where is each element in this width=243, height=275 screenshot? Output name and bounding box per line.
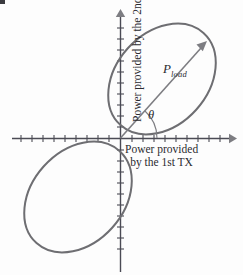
p-load-arrowhead xyxy=(197,41,208,51)
y-axis-label: Power provided by the 2nd TX xyxy=(131,0,144,122)
theta-label: θ xyxy=(148,108,154,122)
y-axis-arrowhead xyxy=(116,9,125,17)
x-axis-label-line2: by the 1st TX xyxy=(125,156,198,169)
x-axis-label: Power provided by the 1st TX xyxy=(125,143,198,169)
x-axis-label-line1: Power provided xyxy=(125,143,198,156)
diagram-canvas xyxy=(0,0,243,275)
p-load-label: Pload xyxy=(163,62,187,79)
x-axis-arrowhead xyxy=(229,134,237,143)
p-load-symbol: P xyxy=(163,61,171,76)
lobe-upper-right xyxy=(86,2,237,156)
p-load-subscript: load xyxy=(171,69,187,79)
polar-power-diagram: Power provided by the 2nd TX Power provi… xyxy=(0,0,243,275)
